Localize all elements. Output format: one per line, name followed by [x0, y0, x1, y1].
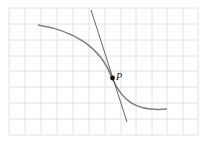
grid: [9, 8, 198, 135]
point-p: [110, 76, 115, 81]
tangent-diagram: P: [0, 0, 200, 142]
point-p-label: P: [115, 71, 122, 82]
tangent-line: [91, 10, 127, 122]
